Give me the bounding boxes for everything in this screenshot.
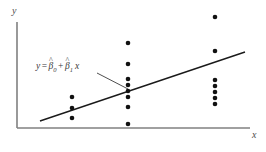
beta-one-hat-caret: ^ bbox=[65, 57, 69, 65]
data-point bbox=[213, 90, 218, 95]
data-point bbox=[213, 78, 218, 83]
data-point bbox=[126, 122, 131, 127]
data-point bbox=[213, 102, 218, 107]
data-point bbox=[126, 105, 131, 110]
equation-x-variable: x bbox=[73, 61, 79, 71]
data-point bbox=[213, 84, 218, 89]
beta-zero-hat: ^β bbox=[49, 62, 54, 72]
equation-equals: = bbox=[40, 61, 48, 71]
data-point bbox=[70, 106, 75, 111]
data-point bbox=[70, 116, 75, 121]
plot-canvas bbox=[0, 0, 266, 152]
axes bbox=[17, 22, 250, 128]
beta-one-hat: ^β bbox=[65, 62, 70, 72]
regression-scatter-figure: y x y=^β0+^β1x bbox=[0, 0, 266, 152]
equation-plus: + bbox=[57, 61, 65, 71]
data-point bbox=[126, 41, 131, 46]
data-point bbox=[126, 89, 131, 94]
y-axis-label: y bbox=[12, 6, 16, 16]
data-point bbox=[126, 83, 131, 88]
data-point bbox=[213, 49, 218, 54]
regression-equation-label: y=^β0+^β1x bbox=[36, 62, 79, 73]
data-point bbox=[126, 95, 131, 100]
data-points bbox=[70, 15, 218, 127]
data-point bbox=[126, 77, 131, 82]
x-axis-label: x bbox=[252, 130, 256, 140]
leader-line bbox=[97, 73, 128, 89]
beta-zero-hat-caret: ^ bbox=[49, 57, 53, 65]
data-point bbox=[213, 96, 218, 101]
data-point bbox=[213, 15, 218, 20]
annotation-leader-line bbox=[97, 73, 128, 89]
data-point bbox=[70, 95, 75, 100]
data-point bbox=[126, 62, 131, 67]
